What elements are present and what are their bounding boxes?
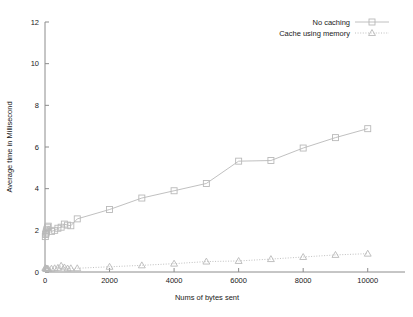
chart-container: 024681012 0200040006000800010000 No cach… <box>0 0 413 317</box>
x-tick-label: 2000 <box>101 276 118 285</box>
y-axis-title: Average time in Millisecond <box>5 101 14 192</box>
y-tick-label: 12 <box>31 18 39 27</box>
x-tick-label: 0 <box>43 276 47 285</box>
x-tick-label: 10000 <box>357 276 378 285</box>
y-tick-label: 6 <box>35 143 39 152</box>
line-chart: 024681012 0200040006000800010000 No cach… <box>0 0 413 317</box>
x-tick-label: 4000 <box>166 276 183 285</box>
legend-label: Cache using memory <box>279 29 350 38</box>
x-tick-label: 6000 <box>230 276 247 285</box>
y-tick-label: 8 <box>35 101 39 110</box>
y-tick-label: 0 <box>35 268 39 277</box>
chart-background <box>0 0 413 317</box>
y-tick-label: 2 <box>35 226 39 235</box>
x-tick-label: 8000 <box>295 276 312 285</box>
legend-label: No caching <box>312 18 350 27</box>
x-axis-title: Nums of bytes sent <box>175 293 240 302</box>
y-tick-label: 10 <box>31 59 39 68</box>
y-tick-label: 4 <box>35 184 39 193</box>
